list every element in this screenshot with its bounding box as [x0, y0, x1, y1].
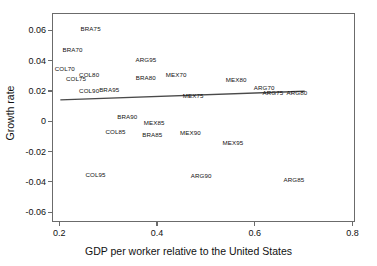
data-point-label: ARG85 [284, 176, 305, 183]
data-point-label: ARG95 [135, 56, 156, 63]
data-point-label: MEX75 [183, 92, 204, 99]
data-point-label: BRA85 [142, 131, 162, 138]
data-point-label: MEX95 [222, 138, 243, 145]
x-tick-mark [156, 222, 157, 226]
y-tick-label: -0.04 [0, 177, 46, 187]
data-point-label: COL95 [85, 170, 105, 177]
data-point-label: MEX90 [180, 128, 201, 135]
y-tick-label: 0 [0, 116, 46, 126]
data-point-label: COL70 [55, 64, 75, 71]
data-point-label: BRA95 [99, 86, 119, 93]
y-tick-label: 0.02 [0, 86, 46, 96]
x-tick-mark [254, 222, 255, 226]
x-axis-label: GDP per worker relative to the United St… [0, 245, 377, 257]
scatter-plot-figure: Growth rate 0.060.040.020-0.02-0.04-0.06… [0, 0, 377, 266]
data-point-label: COL90 [79, 87, 99, 94]
data-point-label: MEX70 [166, 71, 187, 78]
x-tick-label: 0.8 [346, 228, 359, 238]
x-tick-mark [59, 222, 60, 226]
y-tick-label: -0.06 [0, 207, 46, 217]
data-point-label: ARG80 [286, 89, 307, 96]
data-point-label: MEX85 [144, 119, 165, 126]
y-tick-label: 0.06 [0, 25, 46, 35]
x-tick-label: 0.2 [53, 228, 66, 238]
y-tick-label: 0.04 [0, 56, 46, 66]
plot-area: BRA75BRA70COL70ARG95COL80COL75BRA80MEX70… [52, 13, 355, 222]
data-point-label: COL85 [105, 127, 125, 134]
x-tick-label: 0.6 [249, 228, 262, 238]
data-point-label: BRA75 [81, 25, 101, 32]
data-point-label: ARG90 [191, 171, 212, 178]
data-point-label: BRA80 [136, 74, 156, 81]
data-point-label: BRA90 [117, 112, 137, 119]
data-point-label: BRA70 [62, 46, 82, 53]
x-tick-label: 0.4 [151, 228, 164, 238]
data-point-label: COL75 [66, 75, 86, 82]
data-point-label: MEX80 [226, 76, 247, 83]
data-point-label: ARG75 [263, 89, 284, 96]
regression-trendline [53, 14, 355, 222]
y-tick-label: -0.02 [0, 147, 46, 157]
x-tick-mark [352, 222, 353, 226]
